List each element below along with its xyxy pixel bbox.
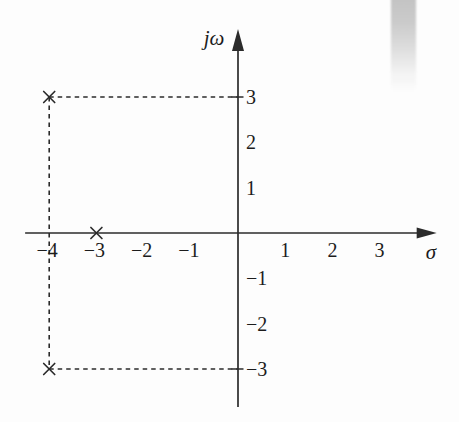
plot-layer: −4−3−2−1123321−1−2−3: [25, 29, 437, 407]
y-tick-label: −3: [246, 358, 267, 380]
sigma-axis-label: σ: [426, 240, 438, 264]
y-tick-label: −1: [246, 267, 267, 289]
jw-axis-label: jω: [201, 26, 225, 50]
x-tick-label: 1: [280, 239, 290, 261]
x-tick-label: −3: [84, 239, 105, 261]
y-tick-label: 3: [246, 86, 256, 108]
pole-zero-plot: −4−3−2−1123321−1−2−3 jω σ: [0, 0, 459, 422]
x-tick-label: −4: [37, 239, 58, 261]
y-tick-label: 2: [246, 131, 256, 153]
pole-zero-figure: −4−3−2−1123321−1−2−3 jω σ: [0, 0, 459, 422]
jw-axis-arrowhead: [232, 29, 244, 51]
x-tick-label: −2: [131, 239, 152, 261]
sigma-axis-arrowhead: [417, 228, 437, 239]
x-tick-label: −1: [178, 239, 199, 261]
x-tick-label: 3: [375, 239, 385, 261]
y-tick-label: −2: [246, 313, 267, 335]
y-tick-label: 1: [246, 177, 256, 199]
x-tick-label: 2: [327, 239, 337, 261]
